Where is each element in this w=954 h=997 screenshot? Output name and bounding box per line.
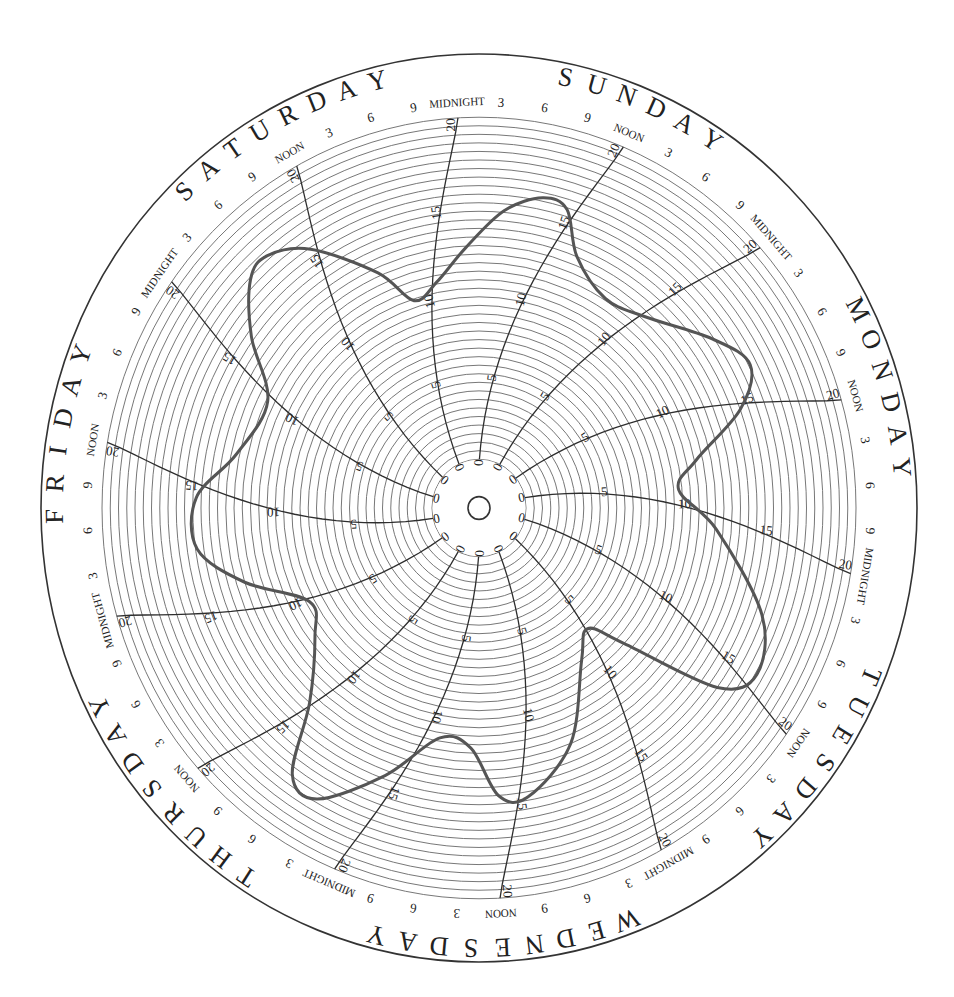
time-label: MIDNIGHT xyxy=(89,591,116,650)
time-label: NOON xyxy=(84,423,101,457)
scale-tick-label: 5 xyxy=(562,592,577,608)
time-label: 9 xyxy=(863,527,878,535)
time-label: 9 xyxy=(128,304,144,318)
day-letter: M xyxy=(840,292,877,327)
day-letter: T xyxy=(218,132,248,166)
time-label: 6 xyxy=(863,482,878,490)
scale-tick-label: 5 xyxy=(537,389,553,403)
scale-tick-label: 10 xyxy=(344,667,364,687)
scale-tick-label: 15 xyxy=(184,478,199,495)
noon-line xyxy=(525,519,787,734)
day-letter: W xyxy=(610,902,643,939)
time-label: MIDNIGHT xyxy=(641,844,695,883)
time-label: 3 xyxy=(151,736,167,751)
day-letter: U xyxy=(583,67,609,102)
day-letter: S xyxy=(809,748,841,778)
scale-tick-label: 15 xyxy=(202,608,220,627)
time-label: 6 xyxy=(245,831,259,848)
time-label: 3 xyxy=(791,266,807,281)
time-label: NOON xyxy=(273,139,306,166)
scale-tick-label: 5 xyxy=(349,516,357,532)
time-label: 3 xyxy=(497,94,505,110)
day-letter: T xyxy=(855,663,888,690)
time-label: 6 xyxy=(814,305,830,319)
day-letter: S xyxy=(463,933,478,964)
day-letter: A xyxy=(333,72,360,107)
day-letter: E xyxy=(585,914,608,948)
time-label: 6 xyxy=(732,803,747,819)
scale-tick-label: 20 xyxy=(604,141,623,160)
day-letter: N xyxy=(523,928,545,961)
chart-disc: 0510152005101520051015200510152005101520… xyxy=(39,54,917,964)
time-label: 9 xyxy=(699,831,713,848)
day-letter: A xyxy=(396,926,419,959)
day-letter: D xyxy=(428,930,449,962)
day-letter: T xyxy=(232,859,261,894)
time-label: 6 xyxy=(540,99,549,115)
time-label: 6 xyxy=(582,890,593,907)
time-label: 9 xyxy=(814,698,830,712)
time-label: NOON xyxy=(846,378,866,413)
scale-tick-label: 10 xyxy=(657,587,675,607)
day-letter: D xyxy=(875,389,908,415)
time-label: NOON xyxy=(485,907,517,921)
day-letter: N xyxy=(866,356,900,384)
day-letter: S xyxy=(169,175,200,207)
day-letter: D xyxy=(789,772,824,806)
day-letter: R xyxy=(273,97,302,133)
scale-tick-label: 5 xyxy=(484,373,499,382)
day-label-saturday: SATURDAY xyxy=(169,63,390,207)
time-label: 3 xyxy=(85,571,101,581)
time-label: 3 xyxy=(323,124,335,141)
day-letter: E xyxy=(826,720,859,750)
midnight-line xyxy=(172,282,434,497)
day-letter: O xyxy=(854,325,888,355)
time-label: 3 xyxy=(763,771,779,786)
day-letter: I xyxy=(42,444,72,457)
day-letter: D xyxy=(642,90,671,126)
scale-tick-label: 0 xyxy=(472,550,487,557)
scale-tick-label: 10 xyxy=(520,706,537,723)
time-label: 3 xyxy=(858,435,874,445)
time-label: 6 xyxy=(699,169,713,186)
time-label: 6 xyxy=(408,900,417,916)
day-letter: S xyxy=(556,60,576,93)
time-label: 3 xyxy=(453,906,461,922)
time-label: NOON xyxy=(612,121,646,145)
day-letter: Y xyxy=(64,340,98,369)
scale-tick-label: 20 xyxy=(500,884,515,899)
scale-tick-label: 5 xyxy=(459,634,474,643)
day-letter: D xyxy=(47,405,80,430)
day-letter: D xyxy=(115,746,150,780)
day-letter: R xyxy=(40,473,70,493)
time-label: 3 xyxy=(283,855,296,872)
center-hub-hole xyxy=(468,497,490,520)
scale-tick-label: 0 xyxy=(471,459,486,466)
scale-tick-label: 5 xyxy=(405,613,421,627)
day-letter: Y xyxy=(887,456,918,478)
scale-tick-label: 10 xyxy=(283,410,301,430)
time-label: 9 xyxy=(833,347,849,359)
day-label-tuesday: TUESDAY xyxy=(745,663,888,855)
time-label: 6 xyxy=(833,658,849,670)
scale-tick-label: 15 xyxy=(428,205,444,221)
day-letter: D xyxy=(302,83,331,119)
time-label: 3 xyxy=(848,615,864,626)
scale-tick-label: 10 xyxy=(421,293,438,310)
time-label: 3 xyxy=(623,875,635,892)
day-letter: A xyxy=(768,796,802,831)
day-letter: Y xyxy=(745,819,779,855)
time-label: 9 xyxy=(733,197,748,213)
time-label: 6 xyxy=(80,527,95,535)
time-label: 9 xyxy=(409,99,418,115)
time-label: 3 xyxy=(94,390,110,401)
time-label: MIDNIGHT xyxy=(855,547,876,606)
day-letter: N xyxy=(613,77,641,112)
day-letter: S xyxy=(136,773,168,804)
day-letter: A xyxy=(54,372,88,399)
scale-tick-label: 15 xyxy=(385,785,403,803)
time-label: 9 xyxy=(80,481,95,489)
time-label: 9 xyxy=(210,803,225,819)
day-letter: A xyxy=(669,105,700,141)
noon-line xyxy=(297,166,443,477)
